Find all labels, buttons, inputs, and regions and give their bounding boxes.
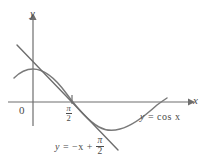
tangent-line-label: y = −x + π 2 — [55, 136, 104, 156]
cosine-label-rhs: cos x — [157, 111, 180, 122]
graph-canvas — [0, 0, 214, 159]
x-axis — [8, 98, 195, 105]
origin-label: 0 — [19, 105, 25, 116]
cosine-curve-label: y = cos x — [140, 112, 180, 122]
tangent-label-rhs: −x + — [72, 141, 93, 152]
fraction-denominator: 2 — [66, 114, 72, 123]
tangent-label-fraction: π 2 — [96, 136, 103, 156]
fraction-pi-over-two: π 2 — [66, 104, 72, 122]
cosine-label-equals: = — [148, 111, 154, 122]
math-figure: y x 0 π 2 y = cos x y = −x + π 2 — [0, 0, 214, 159]
tangent-fraction-denominator: 2 — [96, 147, 103, 157]
y-axis-label: y — [30, 8, 35, 19]
cosine-label-lhs: y — [140, 111, 145, 122]
tangent-line — [17, 45, 118, 150]
tangent-label-lhs: y — [55, 141, 60, 152]
tick-label-pi-over-two: π 2 — [65, 104, 72, 122]
tangent-label-equals: = — [63, 141, 69, 152]
x-axis-label: x — [193, 95, 198, 106]
